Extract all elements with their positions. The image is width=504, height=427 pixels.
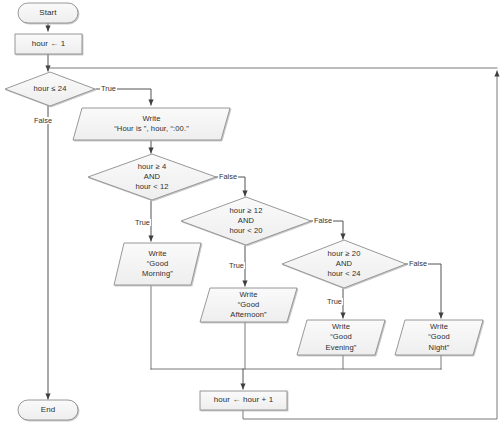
- node-test-afternoon: [181, 197, 311, 245]
- node-write-hour: [73, 108, 230, 140]
- node-loop-test: [5, 72, 95, 106]
- edge-label-afternoon-true: True: [228, 262, 245, 269]
- node-end: [18, 400, 78, 420]
- edge-label-morning-false: False: [218, 173, 238, 180]
- edge-label-morning-true: True: [134, 219, 151, 226]
- node-test-evening: [282, 240, 406, 288]
- node-write-night: [395, 320, 483, 355]
- node-write-morning: [114, 243, 201, 285]
- edge-label-loop-true: True: [100, 85, 117, 92]
- node-start: [18, 3, 78, 23]
- edge-label-evening-false: False: [408, 260, 428, 267]
- node-init: [15, 34, 82, 54]
- flowchart-graphics: [0, 0, 504, 427]
- edge-label-evening-true: True: [326, 298, 343, 305]
- edge-label-afternoon-false: False: [313, 217, 333, 224]
- node-write-evening: [297, 320, 385, 355]
- node-increment: [200, 391, 287, 410]
- edge-label-loop-false: False: [33, 117, 53, 124]
- flowchart-canvas: Start hour ← 1 hour ≤ 24 Write “Hour is …: [0, 0, 504, 427]
- node-write-afternoon: [200, 288, 297, 322]
- node-test-morning: [88, 154, 216, 200]
